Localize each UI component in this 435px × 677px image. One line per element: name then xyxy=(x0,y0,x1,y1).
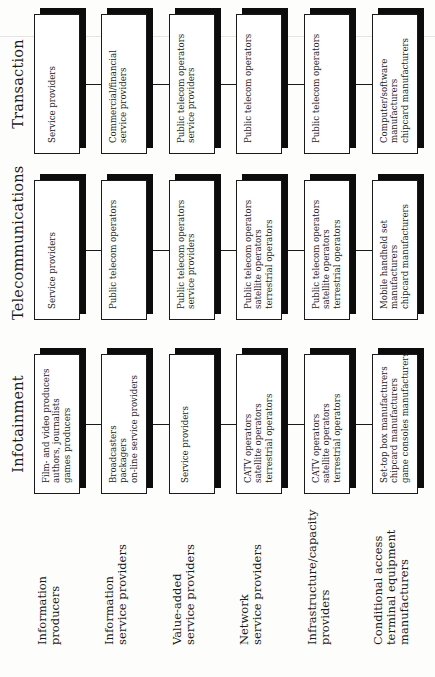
cell-line: authors, journalists xyxy=(51,361,61,483)
cell-line: Service providers xyxy=(47,21,57,143)
cell-line: Public telecom operators xyxy=(311,187,321,309)
cell-line: packagers xyxy=(118,361,128,483)
stage-label-line: service providers xyxy=(184,505,197,645)
cell-box: Commercial/financial service providers xyxy=(101,14,147,154)
cell-line: terrestrial operators xyxy=(264,361,274,483)
stage-label-line: service providers xyxy=(116,505,129,645)
cell-line: satellite operators xyxy=(321,187,331,309)
cell-telecommunications-value-added-service-providers: Public telecom operators service provide… xyxy=(169,180,215,320)
column-header-infotainment: Infotainment xyxy=(10,354,32,494)
cell-box: Service providers xyxy=(34,180,80,320)
cell-box: Public telecom operators xyxy=(236,14,282,154)
cell-line: Broadcasters xyxy=(108,361,118,483)
cell-line: Set-top box manufacturers xyxy=(379,361,389,483)
cell-telecommunications-network-service-providers: Public telecom operators satellite opera… xyxy=(236,180,282,320)
column-header-telecommunications: Telecommunications xyxy=(10,180,32,320)
cell-line: Film- and video producers xyxy=(41,361,51,483)
cell-box: CATV operators satellite operators terre… xyxy=(304,354,350,494)
stage-label-network-service-providers: Network service providers xyxy=(238,505,264,645)
cell-line: Public telecom operators xyxy=(311,21,321,143)
stage-label-line: service providers xyxy=(251,505,264,645)
cell-line: Public telecom operators xyxy=(243,187,253,309)
cell-infotainment-infrastructure-capacity-providers: CATV operators satellite operators terre… xyxy=(304,354,350,494)
stage-label-line: providers xyxy=(319,505,332,645)
cell-line: games producers xyxy=(62,361,72,483)
cell-line: Service providers xyxy=(180,361,190,483)
stage-label-value-added-service-providers: Value-added service providers xyxy=(171,505,197,645)
cell-box: Public telecom operators xyxy=(101,180,147,320)
cell-line: chipcard manufacturers xyxy=(400,187,410,309)
stage-label-infrastructure-capacity-providers: Infrastructure/capacity providers xyxy=(306,505,332,645)
value-chain-diagram: Infotainment Telecommunications Transact… xyxy=(0,0,435,677)
cell-box: Public telecom operators xyxy=(304,14,350,154)
cell-line: chipcard manufacturers xyxy=(400,21,410,143)
cell-infotainment-conditional-access-terminal-equipment: Set-top box manufacturers chipcard manuf… xyxy=(372,354,418,494)
cell-transaction-information-producers: Service providers xyxy=(34,14,80,154)
cell-box: Mobile handheld set manufacturers chipca… xyxy=(372,180,418,320)
cell-box: Service providers xyxy=(169,354,215,494)
cell-line: Commercial/financial xyxy=(108,21,118,143)
cell-line: on-line service providers xyxy=(129,361,139,483)
cell-telecommunications-information-service-providers: Public telecom operators xyxy=(101,180,147,320)
stage-label-conditional-access-terminal-equipment: Conditional access terminal equipment ma… xyxy=(372,505,411,645)
cell-infotainment-information-service-providers: Broadcasters packagers on-line service p… xyxy=(101,354,147,494)
cell-transaction-network-service-providers: Public telecom operators xyxy=(236,14,282,154)
cell-line: Public telecom operators xyxy=(108,187,118,309)
cell-line: Public telecom operators xyxy=(243,21,253,143)
cell-line: Public telecom operators xyxy=(176,21,186,143)
stage-label-information-service-providers: Information service providers xyxy=(103,505,129,645)
cell-line: satellite operators xyxy=(253,361,263,483)
cell-line: satellite operators xyxy=(321,361,331,483)
cell-line: chipcard manufacturers xyxy=(389,361,399,483)
cell-line: CATV operators xyxy=(311,361,321,483)
cell-line: CATV operators xyxy=(243,361,253,483)
stage-label-information-producers: Information producers xyxy=(36,505,62,645)
cell-transaction-infrastructure-capacity-providers: Public telecom operators xyxy=(304,14,350,154)
cell-box: CATV operators satellite operators terre… xyxy=(236,354,282,494)
cell-infotainment-information-producers: Film- and video producers authors, journ… xyxy=(34,354,80,494)
cell-box: Set-top box manufacturers chipcard manuf… xyxy=(372,354,418,494)
stage-label-line: manufacturers xyxy=(398,505,411,645)
cell-box: Service providers xyxy=(34,14,80,154)
cell-box: Public telecom operators satellite opera… xyxy=(236,180,282,320)
cell-line: manufacturers xyxy=(389,187,399,309)
cell-transaction-conditional-access-terminal-equipment: Computer/software manufacturers chipcard… xyxy=(372,14,418,154)
cell-box: Public telecom operators service provide… xyxy=(169,180,215,320)
cell-line: terrestrial operators xyxy=(332,187,342,309)
cell-line: terrestrial operators xyxy=(264,187,274,309)
cell-box: Broadcasters packagers on-line service p… xyxy=(101,354,147,494)
cell-telecommunications-information-producers: Service providers xyxy=(34,180,80,320)
cell-box: Computer/software manufacturers chipcard… xyxy=(372,14,418,154)
cell-box: Film- and video producers authors, journ… xyxy=(34,354,80,494)
cell-line: Computer/software xyxy=(379,21,389,143)
cell-telecommunications-conditional-access-terminal-equipment: Mobile handheld set manufacturers chipca… xyxy=(372,180,418,320)
cell-telecommunications-infrastructure-capacity-providers: Public telecom operators satellite opera… xyxy=(304,180,350,320)
cell-line: satellite operators xyxy=(253,187,263,309)
cell-transaction-value-added-service-providers: Public telecom operators service provide… xyxy=(169,14,215,154)
cell-line: terrestrial operators xyxy=(332,361,342,483)
cell-infotainment-value-added-service-providers: Service providers xyxy=(169,354,215,494)
column-header-transaction: Transaction xyxy=(10,14,32,154)
cell-line: Mobile handheld set xyxy=(379,187,389,309)
cell-box: Public telecom operators satellite opera… xyxy=(304,180,350,320)
cell-line: game consoles manufacturers xyxy=(400,361,410,483)
cell-infotainment-network-service-providers: CATV operators satellite operators terre… xyxy=(236,354,282,494)
stage-label-line: producers xyxy=(49,505,62,645)
cell-line: service providers xyxy=(186,21,196,143)
cell-line: Service providers xyxy=(47,187,57,309)
cell-box: Public telecom operators service provide… xyxy=(169,14,215,154)
cell-transaction-information-service-providers: Commercial/financial service providers xyxy=(101,14,147,154)
cell-line: service providers xyxy=(186,187,196,309)
cell-line: service providers xyxy=(118,21,128,143)
cell-line: Public telecom operators xyxy=(176,187,186,309)
cell-line: manufacturers xyxy=(389,21,399,143)
